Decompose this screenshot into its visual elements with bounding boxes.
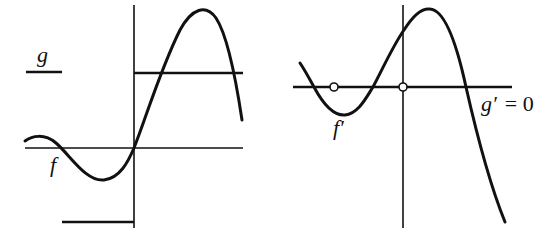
f-prime-label: f′ [333, 115, 345, 140]
open-circle-2 [399, 83, 407, 91]
f-label: f [50, 152, 59, 177]
equals-zero: = 0 [505, 91, 534, 116]
g-prime-equals-zero-label: g′ = 0 [481, 91, 534, 116]
left-panel: g f [25, 5, 243, 228]
open-circle-1 [330, 83, 338, 91]
figure-canvas: g f f′ g′ = 0 [0, 0, 536, 236]
g-prime-symbol: g′ [481, 91, 498, 116]
right-panel: f′ g′ = 0 [293, 5, 534, 228]
g-label: g [37, 42, 48, 67]
